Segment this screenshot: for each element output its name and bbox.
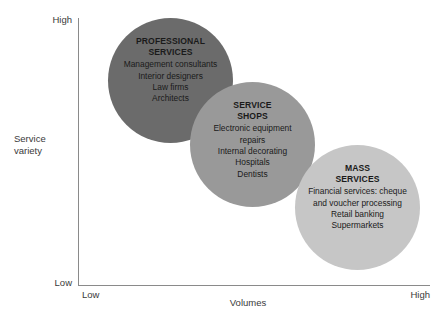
y-axis-line: [78, 18, 79, 286]
bubble-heading: SERVICE SHOPS: [233, 100, 271, 121]
list-item: Management consultants: [124, 59, 218, 70]
list-item: Hospitals: [213, 157, 291, 168]
list-item: Electronic equipment repairs: [213, 123, 291, 146]
x-axis-line: [78, 285, 430, 286]
service-process-matrix-diagram: High Service variety Low Low High Volume…: [0, 0, 444, 319]
bubble-item-list: Electronic equipment repairs Internal de…: [213, 123, 291, 180]
list-item: Law firms: [124, 82, 218, 93]
list-item: Financial services: cheque and voucher p…: [308, 186, 407, 209]
list-item: Architects: [124, 93, 218, 104]
bubble-heading: MASS SERVICES: [335, 163, 379, 184]
y-axis-low-label: Low: [44, 277, 72, 289]
x-axis-high-label: High: [396, 289, 430, 301]
list-item: Interior designers: [124, 71, 218, 82]
x-axis-title: Volumes: [188, 297, 308, 309]
bubble-heading: PROFESSIONAL SERVICES: [136, 36, 205, 57]
bubble-item-list: Management consultants Interior designer…: [124, 59, 218, 105]
list-item: Internal decorating: [213, 146, 291, 157]
list-item: Dentists: [213, 169, 291, 180]
bubble-service-shops: SERVICE SHOPS Electronic equipment repai…: [190, 82, 315, 207]
y-axis-title: Service variety: [14, 133, 76, 156]
list-item: Supermarkets: [308, 220, 407, 231]
bubble-item-list: Financial services: cheque and voucher p…: [308, 186, 407, 232]
bubble-mass-services: MASS SERVICES Financial services: cheque…: [295, 145, 420, 270]
y-axis-high-label: High: [44, 14, 72, 26]
x-axis-low-label: Low: [82, 289, 122, 301]
list-item: Retail banking: [308, 209, 407, 220]
